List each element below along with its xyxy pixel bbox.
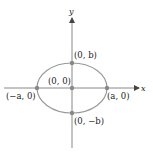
point-center <box>70 86 74 90</box>
point-top <box>70 61 74 65</box>
ellipse-diagram: x y (0, b) (0, 0) (−a, 0) (a, 0) (0, −b) <box>0 0 153 155</box>
label-top: (0, b) <box>74 50 97 60</box>
x-axis-label: x <box>141 84 146 93</box>
label-bottom: (0, −b) <box>74 116 104 126</box>
point-left <box>35 86 39 90</box>
point-right <box>105 86 109 90</box>
y-axis-label: y <box>68 7 74 16</box>
label-center: (0, 0) <box>48 76 71 86</box>
label-right: (a, 0) <box>107 91 130 101</box>
label-left: (−a, 0) <box>6 91 36 101</box>
point-bottom <box>70 111 74 115</box>
